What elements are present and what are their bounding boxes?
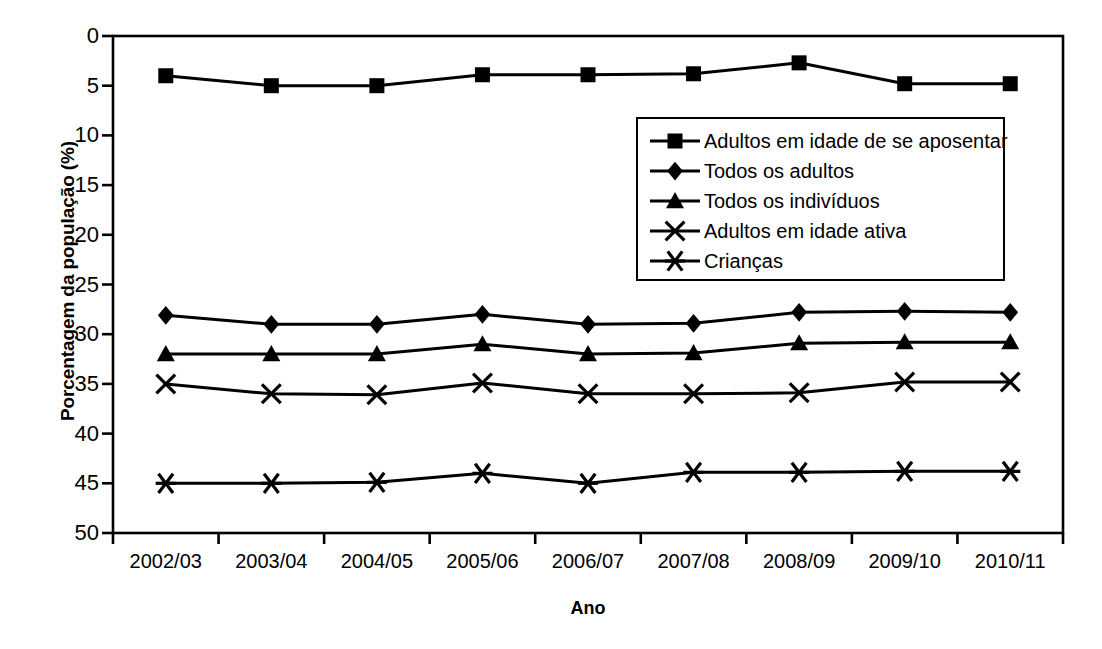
series-1 — [158, 55, 1017, 93]
asterisk-marker-icon — [648, 246, 702, 276]
data-point — [1000, 462, 1020, 481]
data-point — [895, 462, 915, 481]
legend-item: Todos os indivíduos — [648, 186, 880, 216]
series-3 — [157, 333, 1019, 361]
series-5 — [156, 462, 1021, 493]
data-point — [686, 314, 702, 333]
x-axis-title: Ano — [113, 598, 1063, 619]
data-point — [578, 474, 598, 493]
y-tick-label: 0 — [45, 25, 99, 47]
legend-item: Todos os adultos — [648, 156, 854, 186]
data-point — [475, 305, 491, 324]
triangle-marker-icon — [648, 186, 702, 216]
data-point — [580, 315, 596, 334]
data-point — [158, 68, 173, 83]
y-tick-label: 10 — [45, 124, 99, 146]
data-point — [263, 315, 279, 334]
data-point — [581, 67, 596, 82]
plot-frame — [113, 36, 1063, 533]
legend-item: Adultos em idade de se aposentar — [648, 126, 1008, 156]
data-point — [472, 464, 492, 483]
data-point — [369, 78, 384, 93]
y-tick-label: 45 — [45, 472, 99, 494]
series-4 — [156, 373, 1019, 405]
y-tick-label: 15 — [45, 174, 99, 196]
legend-item-label: Adultos em idade de se aposentar — [704, 130, 1008, 152]
y-tick-label: 30 — [45, 323, 99, 345]
y-tick-label: 40 — [45, 423, 99, 445]
legend-item-label: Crianças — [704, 250, 783, 272]
chart-legend: Adultos em idade de se aposentarTodos os… — [636, 117, 1005, 281]
square-marker-icon — [648, 126, 702, 156]
data-point — [261, 474, 281, 493]
legend-item: Crianças — [648, 246, 783, 276]
data-point — [686, 66, 701, 81]
data-point — [367, 473, 387, 492]
data-point — [1002, 303, 1018, 322]
data-point — [1003, 76, 1018, 91]
x-tick-label: 2010/11 — [945, 550, 1075, 572]
legend-item-label: Todos os indivíduos — [704, 190, 880, 212]
y-tick-label: 35 — [45, 373, 99, 395]
data-point — [473, 335, 491, 351]
data-point — [156, 474, 176, 493]
data-point — [791, 303, 807, 322]
legend-item: Adultos em idade ativa — [648, 216, 906, 246]
cross-marker-icon — [648, 216, 702, 246]
data-point — [789, 463, 809, 482]
data-point — [369, 315, 385, 334]
legend-item-label: Adultos em idade ativa — [704, 220, 906, 242]
data-point — [897, 302, 913, 321]
chart-figure: Porcentagem da população (%) Ano 5045403… — [0, 0, 1102, 649]
y-tick-label: 25 — [45, 274, 99, 296]
y-tick-label: 20 — [45, 224, 99, 246]
data-point — [792, 55, 807, 70]
data-point — [683, 463, 703, 482]
data-point — [475, 67, 490, 82]
y-tick-label: 5 — [45, 75, 99, 97]
data-point — [264, 78, 279, 93]
series-2 — [158, 302, 1018, 334]
legend-item-label: Todos os adultos — [704, 160, 854, 182]
y-tick-label: 50 — [45, 522, 99, 544]
data-point — [897, 76, 912, 91]
data-point — [158, 306, 174, 325]
diamond-marker-icon — [648, 156, 702, 186]
